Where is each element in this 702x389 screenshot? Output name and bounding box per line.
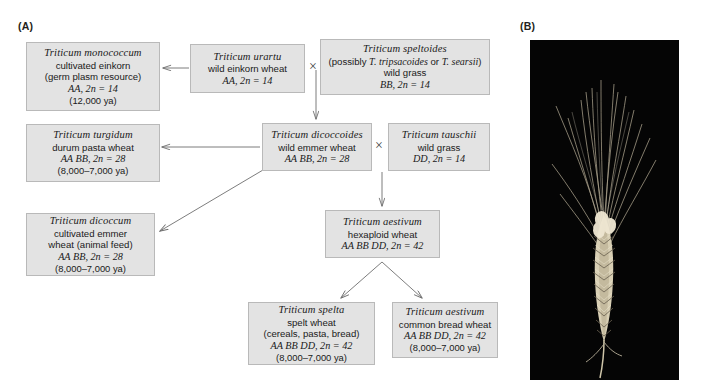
- node-triticum-dicoccoides: Triticum dicoccoides wild emmer wheat AA…: [262, 123, 372, 171]
- genome-formula: AA BB DD, 2n = 42: [271, 340, 353, 352]
- species-name: Triticum aestivum: [343, 216, 422, 229]
- genome-formula: AA BB DD, 2n = 42: [342, 240, 424, 252]
- node-triticum-turgidum: Triticum turgidum durum pasta wheat AA B…: [26, 124, 160, 182]
- arrow-aestivum-to-spelta: [341, 262, 382, 298]
- species-name: Triticum tauschii: [402, 129, 477, 142]
- age-label: (8,000–7,000 ya): [58, 165, 129, 176]
- species-name: Triticum turgidum: [53, 129, 133, 142]
- species-name: Triticum monococcum: [44, 47, 141, 60]
- node-triticum-monococcum: Triticum monococcum cultivated einkorn (…: [26, 42, 160, 111]
- genome-formula: AA, 2n = 14: [68, 83, 118, 95]
- age-label: (8,000–7,000 ya): [55, 263, 126, 274]
- genome-formula: AA BB DD, 2n = 42: [404, 330, 486, 342]
- species-name: Triticum dicoccoides: [271, 129, 363, 142]
- common-name: cultivated emmer: [54, 228, 127, 240]
- age-label: (12,000 ya): [69, 95, 116, 106]
- common-name: wild grass: [384, 67, 427, 79]
- wheat-ear-photograph: [530, 40, 679, 380]
- species-name: Triticum dicoccum: [50, 215, 132, 228]
- node-triticum-urartu: Triticum urartu wild einkorn wheat AA, 2…: [190, 44, 305, 93]
- genome-formula: AA BB, 2n = 28: [61, 153, 126, 165]
- genome-formula: AA BB, 2n = 28: [58, 251, 123, 263]
- species-name: Triticum speltoides: [363, 43, 447, 56]
- genome-formula: AA BB, 2n = 28: [285, 153, 350, 165]
- species-name: Triticum aestivum: [406, 306, 485, 319]
- node-triticum-dicoccum: Triticum dicoccum cultivated emmer wheat…: [26, 213, 155, 276]
- age-label: (8,000–7,000 ya): [276, 352, 347, 363]
- wheat-ear-illustration: [530, 40, 679, 380]
- figure-root: (A) (B) × × Triticum monoco: [0, 0, 702, 389]
- common-name: cultivated einkorn: [56, 60, 131, 72]
- genome-formula: BB, 2n = 14: [380, 79, 430, 91]
- node-triticum-tauschii: Triticum tauschii wild grass DD, 2n = 14: [388, 123, 490, 171]
- node-triticum-spelta: Triticum spelta spelt wheat (cereals, pa…: [248, 302, 375, 365]
- arrow-aestivum-to-bread-wheat: [382, 262, 422, 298]
- node-triticum-aestivum-hexaploid: Triticum aestivum hexaploid wheat AA BB …: [325, 210, 440, 258]
- common-name: spelt wheat: [287, 317, 336, 329]
- common-name: wild emmer wheat: [278, 142, 355, 154]
- node-triticum-aestivum-bread: Triticum aestivum common bread wheat AA …: [392, 302, 498, 358]
- species-name: Triticum spelta: [278, 304, 344, 317]
- age-label: (8,000–7,000 ya): [410, 342, 481, 353]
- cross-symbol-1: ×: [309, 60, 317, 74]
- common-name: common bread wheat: [399, 319, 491, 331]
- arrow-dicoccoides-to-dicoccum: [160, 170, 263, 231]
- usage-note: (cereals, pasta, bread): [264, 328, 360, 340]
- common-name: durum pasta wheat: [52, 142, 134, 154]
- genome-formula: AA, 2n = 14: [223, 75, 273, 87]
- common-name: wild einkorn wheat: [208, 63, 287, 75]
- node-triticum-speltoides: Triticum speltoides (possibly T. tripsac…: [320, 39, 490, 95]
- possible-synonyms: (possibly T. tripsacoides or T. searsii): [329, 56, 482, 68]
- usage-note: wheat (animal feed): [48, 239, 132, 251]
- common-name: wild grass: [418, 142, 461, 154]
- genome-formula: DD, 2n = 14: [413, 153, 465, 165]
- common-name: hexaploid wheat: [348, 229, 417, 241]
- usage-note: (germ plasm resource): [45, 71, 142, 83]
- species-name: Triticum urartu: [214, 51, 282, 64]
- cross-symbol-2: ×: [375, 139, 383, 153]
